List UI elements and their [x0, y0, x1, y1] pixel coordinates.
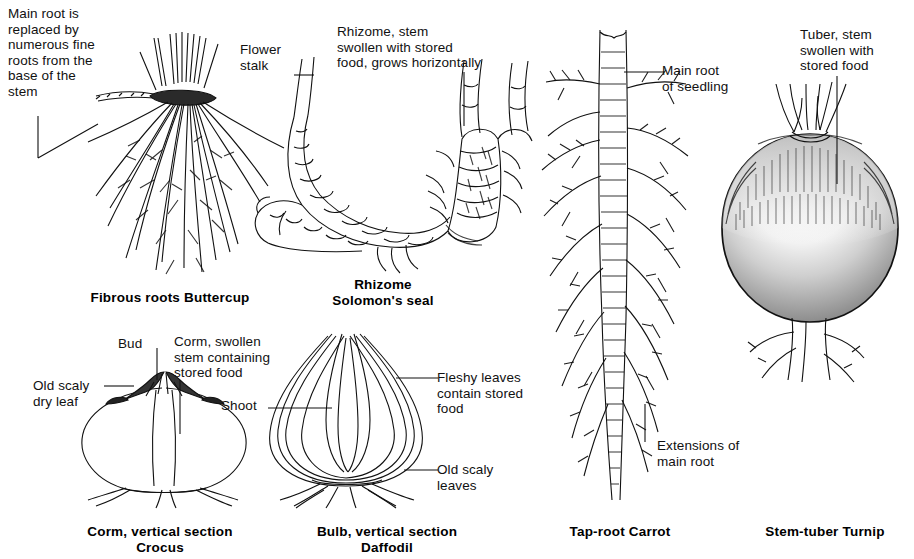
illustration-daffodil-bulb — [258, 330, 438, 510]
label-tuber-note: Tuber, stem swollen with stored food — [800, 27, 910, 74]
caption-carrot: Tap-root Carrot — [520, 524, 720, 540]
leader-line-old-scaly-leaves — [404, 464, 440, 474]
leader-line-fibrous-note — [36, 110, 106, 170]
caption-buttercup: Fibrous roots Buttercup — [60, 290, 280, 306]
leader-line-extensions — [640, 404, 650, 444]
label-rhizome-note: Rhizome, stem swollen with stored food, … — [337, 24, 537, 71]
leader-line-bud — [152, 348, 162, 382]
label-old-scaly-dry-leaf: Old scaly dry leaf — [33, 378, 113, 409]
leader-line-fleshy-leaves — [396, 372, 440, 382]
label-fibrous-root-note: Main root is replaced by numerous fine r… — [8, 6, 128, 99]
illustration-solomons-seal-rhizome — [250, 55, 530, 285]
label-extensions: Extensions of main root — [657, 438, 777, 469]
label-fleshy-leaves: Fleshy leaves contain stored food — [437, 370, 557, 417]
leader-line-corm-note — [176, 380, 184, 436]
caption-crocus: Corm, vertical section Crocus — [45, 524, 275, 555]
illustration-turnip-stemtuber — [706, 82, 912, 382]
leader-line-flower-stalk — [294, 70, 316, 78]
leader-line-tuber-note — [832, 76, 842, 186]
label-old-scaly-leaves: Old scaly leaves — [437, 462, 547, 493]
leader-line-old-scaly-dry-leaf — [104, 380, 136, 390]
leader-line-rhizome-note — [460, 72, 468, 128]
leader-line-shoot — [268, 402, 334, 412]
caption-turnip: Stem-tuber Turnip — [725, 524, 914, 540]
leader-line-main-root-seedling — [624, 66, 666, 76]
caption-daffodil: Bulb, vertical section Daffodil — [272, 524, 502, 555]
caption-solomons-seal: Rhizome Solomon's seal — [293, 277, 473, 308]
diagram-canvas: Main root is replaced by numerous fine r… — [0, 0, 914, 559]
illustration-carrot-taproot — [540, 28, 710, 508]
label-flower-stalk: Flower stalk — [240, 42, 304, 73]
